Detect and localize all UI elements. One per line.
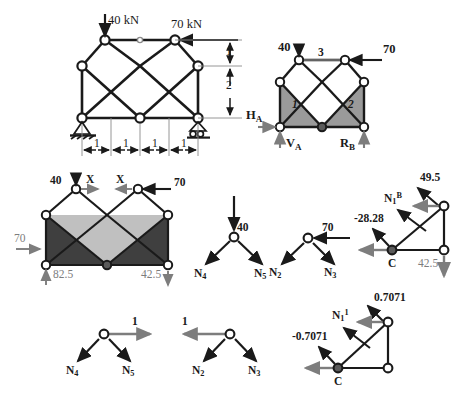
n1b-sup: B (396, 191, 402, 200)
panel-joint-c-real: 49.5 N1B -28.28 C 42.5 (356, 176, 468, 284)
cut-label-x-right: X (116, 174, 124, 186)
jointc-unit-label-n1: N11 (332, 309, 349, 324)
unit-right-node (226, 330, 235, 339)
u-n3-sub: 3 (256, 369, 260, 378)
unit-right-member-n2: N2 (192, 365, 204, 379)
reaction-label-ha: HA (246, 109, 262, 124)
reaction-load-70: 70 (383, 43, 396, 56)
panel-joint-40: 40 N4 N5 (196, 192, 276, 284)
jointc-unit-value-neg: -0.7071 (292, 331, 327, 343)
reaction-load-40: 40 (278, 41, 291, 54)
n5-sub: 5 (262, 272, 266, 281)
joint70-arrows (282, 238, 350, 264)
panel-joint-c-unit: 0.7071 N11 -0.7071 C (300, 296, 415, 396)
joint70-member-n2: N2 (269, 267, 281, 281)
section-reaction-42: 42.5 (141, 269, 161, 281)
member-label-1: 1 (292, 99, 298, 111)
joint40-arrows (206, 196, 262, 264)
va-sub: A (295, 142, 302, 152)
unit-right-arrows (204, 339, 256, 361)
section-reaction-82: 82.5 (53, 269, 73, 281)
jointc-real-label-c: C (388, 258, 396, 270)
dim-h-3: 1 (152, 138, 158, 150)
dim-vertical-2: 2 (226, 80, 232, 92)
main-truss-svg (70, 8, 245, 158)
u-n2-sub: 2 (200, 369, 204, 378)
unit-right-member-n3: N3 (248, 365, 260, 379)
section-load-40: 40 (50, 175, 62, 187)
dim-h-1: 1 (94, 138, 100, 150)
u-n5-sub: 5 (130, 369, 134, 378)
jointc-real-svg (356, 176, 468, 284)
panel-unit-joint-right: 1 N2 N3 (168, 308, 263, 393)
roller-support (187, 122, 210, 138)
member-label-3: 3 (318, 47, 324, 59)
jointc-unit-label-c: C (334, 376, 342, 388)
n4-sub: 4 (202, 272, 206, 281)
load-label-40kn: 40 kN (108, 14, 139, 27)
unit-left-svg (72, 308, 167, 393)
reaction-label-rb: RB (340, 137, 355, 152)
dim-h-2: 1 (123, 138, 129, 150)
dim-vertical-1: 1 (226, 46, 232, 58)
joint40-load-label: 40 (237, 222, 249, 234)
joint70-svg (268, 200, 358, 285)
pin-support (70, 122, 96, 139)
ha-base: H (246, 108, 256, 122)
panel-truss-reactions: 40 70 3 1 2 HA VA RB (270, 45, 435, 160)
panel-joint-70: 70 N2 N3 (268, 200, 358, 285)
dim-h-4: 1 (181, 138, 187, 150)
unit-left-arrows (78, 339, 130, 361)
load-label-70kn: 70 kN (171, 18, 202, 31)
unit-right-load-label: 1 (182, 316, 188, 328)
joint70-load-label: 70 (322, 222, 334, 234)
jointc-real-label-n1b: N1B (384, 192, 402, 207)
va-base: V (286, 136, 295, 150)
section-shading (46, 215, 168, 265)
panel-truss-section: 40 70 X X 70 82.5 42.5 (28, 175, 198, 285)
n3-sub: 3 (332, 271, 336, 280)
jointc-real-value-495: 49.5 (420, 172, 440, 184)
cut-label-x-left: X (86, 174, 94, 186)
jointc-unit-value-pos: 0.7071 (374, 292, 406, 304)
panel-unit-joint-left: 1 N4 N5 (72, 308, 167, 393)
joint70-member-n3: N3 (324, 267, 336, 281)
section-load-70-left: 70 (14, 233, 26, 245)
jointc-real-value-425: 42.5 (418, 258, 438, 270)
n2-sub: 2 (277, 271, 281, 280)
joint70-node (304, 234, 313, 243)
panel-main-truss: 40 kN 70 kN 1 2 1 1 1 1 (70, 8, 245, 158)
truss-members (82, 40, 198, 118)
ha-sub: A (256, 114, 263, 124)
joint40-member-n4: N4 (194, 268, 206, 282)
n11-sup: 1 (344, 308, 348, 317)
reaction-label-va: VA (286, 137, 302, 152)
rb-base: R (340, 136, 349, 150)
u-n4-sub: 4 (74, 369, 78, 378)
joint40-node (230, 233, 239, 242)
member-label-2: 2 (348, 99, 354, 111)
section-load-70-right: 70 (174, 177, 186, 189)
unit-left-member-n5: N5 (122, 365, 134, 379)
rb-sub: B (349, 142, 355, 152)
unit-left-member-n4: N4 (66, 365, 78, 379)
unit-left-node (100, 330, 109, 339)
unit-left-load-label: 1 (132, 316, 138, 328)
jointc-real-value-2828: -28.28 (354, 213, 384, 225)
jointc-unit-svg (300, 296, 415, 396)
joint40-member-n5: N5 (254, 268, 266, 282)
